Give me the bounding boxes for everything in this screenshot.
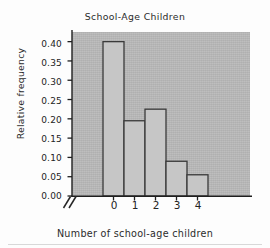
bar-3 [166, 161, 187, 196]
bar-4 [187, 175, 208, 196]
chart-graphics [0, 0, 270, 248]
scan-artifact-line [8, 244, 262, 245]
bar-1 [124, 121, 145, 196]
figure: School-Age Children 0.00 0.05 0.10 0.15 … [0, 0, 270, 248]
bars-group [103, 42, 208, 196]
bar-2 [145, 109, 166, 196]
bar-0 [103, 42, 124, 196]
axis-break-icon [64, 197, 77, 209]
